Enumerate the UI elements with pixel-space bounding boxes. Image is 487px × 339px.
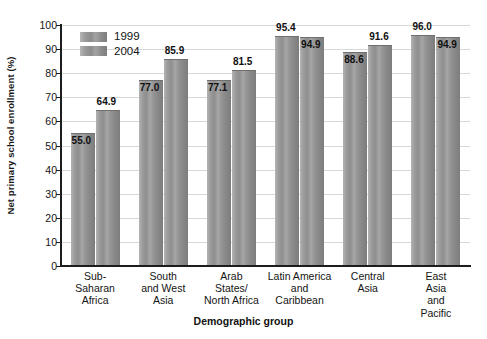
bar [71,133,95,266]
y-axis-tick-mark [56,97,61,98]
legend: 19992004 [80,31,140,57]
x-axis-tick-label-line: and [419,294,453,306]
x-axis-tick-label-line: Saharan [75,282,115,294]
x-axis-line [60,265,471,267]
y-axis-tick-mark [56,146,61,147]
y-axis-tick-label: 80 [24,68,57,79]
bar-value-label: 96.0 [412,22,431,32]
bar [207,80,231,266]
x-axis-title: Demographic group [0,315,487,327]
bar [300,37,324,266]
y-axis-tick-mark [56,49,61,50]
y-axis-title-text: Net primary school enrollment (%) [6,56,17,214]
bar [343,52,367,266]
bar-value-label: 85.9 [165,46,184,56]
bar [139,80,163,266]
x-axis-tick-label: ArabStates/North Africa [204,270,259,307]
bar-value-label: 64.9 [97,97,116,107]
bar [275,36,299,266]
y-axis-tick-label: 70 [24,92,57,103]
x-axis-tick-label-line: Latin America [268,270,332,282]
x-axis-tick-label: Latin AmericaandCaribbean [268,270,332,307]
y-axis-tick-label: 60 [24,116,57,127]
y-axis-tick-mark [56,218,61,219]
y-axis-tick-label: 50 [24,140,57,151]
y-axis-tick-label: 0 [24,261,57,272]
x-axis-tick-label: Southand WestAsia [141,270,185,307]
y-axis-tick-mark [56,266,61,267]
bars-layer: 55.064.977.085.977.181.595.494.988.691.6… [61,25,470,266]
legend-label: 1999 [114,31,140,43]
x-axis-tick-label-line: and [268,282,332,294]
x-axis-tick-label-line: and West [141,282,185,294]
x-axis-tick-label-line: Asia [141,294,185,306]
x-axis-tick-label-line: Arab [204,270,259,282]
y-axis-tick-label: 30 [24,188,57,199]
x-axis-tick-label-line: North Africa [204,294,259,306]
x-axis-tick-label-line: South [141,270,185,282]
y-axis-tick-mark [56,121,61,122]
x-axis-tick-label-line: Africa [75,294,115,306]
x-axis-tick-label: CentralAsia [351,270,385,294]
y-axis-tick-mark [56,194,61,195]
bar [96,110,120,266]
x-axis-tick-label-line: Caribbean [268,294,332,306]
x-axis-tick-label: East AsiaandPacific [419,270,453,319]
bar-value-label: 77.1 [208,83,227,93]
x-axis-tick-labels: Sub-SaharanAfricaSouthand WestAsiaArabSt… [61,270,470,320]
legend-item: 2004 [80,46,140,58]
x-axis-tick-label-line: East Asia [419,270,453,294]
legend-label: 2004 [114,46,140,58]
legend-item: 1999 [80,31,140,43]
y-axis-tick-label: 90 [24,44,57,55]
x-axis-tick-label-line: States/ [204,282,259,294]
bar-value-label: 95.4 [276,23,295,33]
y-axis-title: Net primary school enrollment (%) [0,0,22,270]
bar [232,70,256,266]
bar [436,37,460,266]
y-axis-tick-label: 20 [24,213,57,224]
y-axis-tick-mark [56,170,61,171]
bar [164,59,188,266]
bar-value-label: 94.9 [437,40,456,50]
x-axis-tick-label-line: Central [351,270,385,282]
y-axis-tick-label: 10 [24,237,57,248]
y-axis-tick-mark [56,73,61,74]
legend-swatch-icon [80,46,107,56]
y-axis-tick-mark [56,242,61,243]
x-axis-tick-label: Sub-SaharanAfrica [75,270,115,307]
bar-value-label: 88.6 [344,55,363,65]
y-axis-tick-labels: 0102030405060708090100 [24,0,57,290]
x-axis-tick-label-line: Sub- [75,270,115,282]
bar-value-label: 94.9 [301,40,320,50]
bar [368,45,392,266]
bar-value-label: 91.6 [369,32,388,42]
x-axis-tick-label-line: Asia [351,282,385,294]
plot-area: 55.064.977.085.977.181.595.494.988.691.6… [61,25,470,266]
bar-value-label: 55.0 [72,136,91,146]
legend-swatch-icon [80,32,107,42]
bar-value-label: 81.5 [233,57,252,67]
y-axis-tick-label: 40 [24,164,57,175]
bar-value-label: 77.0 [140,83,159,93]
y-axis-tick-mark [56,25,61,26]
y-axis-tick-label: 100 [24,20,57,31]
bar [411,35,435,266]
bar-chart: Net primary school enrollment (%) 010203… [0,0,487,339]
